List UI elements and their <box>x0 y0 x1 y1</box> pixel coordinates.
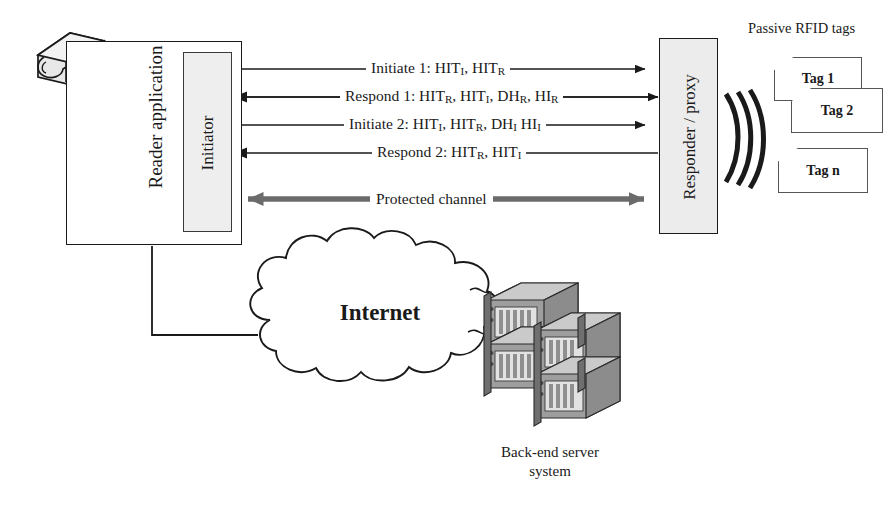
tag-n-label: Tag n <box>778 163 868 179</box>
initiator-label: Initiator <box>195 53 221 233</box>
tag-2-label: Tag 2 <box>791 103 883 119</box>
initiator-box: Initiator <box>183 52 232 232</box>
message-label-initiate-1: Initiate 1: HITI, HITR <box>366 59 510 80</box>
rf-wave-icon <box>726 90 764 188</box>
internet-label: Internet <box>300 300 460 326</box>
reader-application-label: Reader application <box>143 15 169 219</box>
responder-proxy-label: Responder / proxy <box>677 39 703 235</box>
protected-channel-label: Protected channel <box>370 190 493 208</box>
message-label-respond-1: Respond 1: HITR, HITI, DHR, HIR <box>340 87 563 108</box>
message-label-initiate-2: Initiate 2: HITI, HITR, DHI HII <box>344 115 546 136</box>
message-label-respond-2: Respond 2: HITR, HITI <box>372 143 526 164</box>
backend-server-caption-line1: Back-end server <box>440 443 660 462</box>
backend-server-graphic <box>468 283 620 426</box>
backend-server-caption-line2: system <box>440 462 660 481</box>
passive-rfid-tags-heading: Passive RFID tags <box>748 20 890 37</box>
tag-1-label: Tag 1 <box>774 71 862 87</box>
responder-proxy-box: Responder / proxy <box>659 38 718 234</box>
backend-server-caption: Back-end server system <box>440 443 660 481</box>
reader-to-internet-link <box>152 246 258 335</box>
diagram-canvas: Reader application Initiator Responder /… <box>0 0 890 512</box>
